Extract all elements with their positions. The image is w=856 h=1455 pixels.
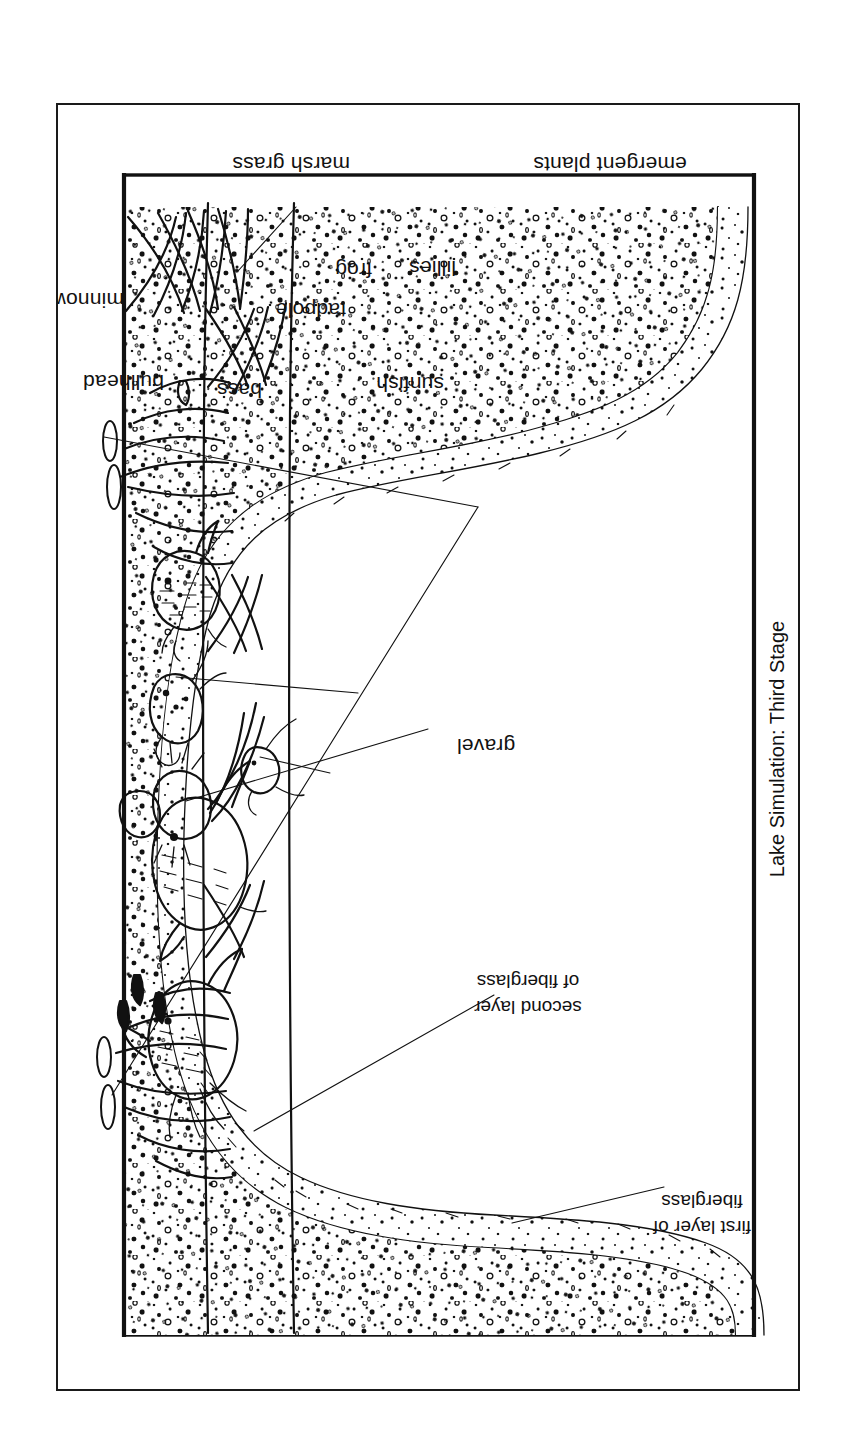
label-bass: bass: [217, 379, 262, 402]
cattail-head: [97, 1037, 115, 1129]
submerged-weed-right: [204, 881, 264, 959]
label-lillies: lillies: [409, 257, 456, 280]
label-bullhead: bullhead: [83, 371, 164, 394]
label-marsh-grass: marsh grass: [232, 153, 350, 176]
shore-debris: [200, 405, 720, 1257]
leader-first-layer: [512, 1187, 664, 1223]
leader-lillies: [186, 729, 428, 801]
label-second-layer-line2: of fiberglass: [477, 971, 579, 992]
figure-caption: Lake Simulation: Third Stage: [766, 621, 788, 877]
gravel-bed: [108, 153, 768, 1353]
leader-tadpole: [260, 757, 330, 773]
page-border: marsh grass emergent plants lillies frog…: [56, 103, 800, 1391]
diagram-canvas: marsh grass emergent plants lillies frog…: [58, 105, 802, 1393]
label-frog: frog: [335, 259, 372, 282]
label-sunfish: sunfish: [376, 373, 444, 396]
label-first-layer-line1: first layer of: [652, 1217, 751, 1238]
label-emergent-plants: emergent plants: [533, 153, 687, 176]
label-first-layer-line2: fiberglass: [661, 1191, 742, 1212]
label-minnows: minnows: [58, 289, 124, 312]
label-second-layer-line1: second layer: [473, 997, 581, 1018]
tadpole: [241, 719, 304, 815]
rotated-diagram-wrapper: marsh grass emergent plants lillies frog…: [58, 105, 802, 1393]
label-gravel: gravel: [457, 735, 515, 758]
label-tadpole: tadpole: [276, 299, 346, 322]
cattail-head: [103, 421, 121, 509]
lake-simulation-diagram: marsh grass emergent plants lillies frog…: [58, 105, 802, 1393]
